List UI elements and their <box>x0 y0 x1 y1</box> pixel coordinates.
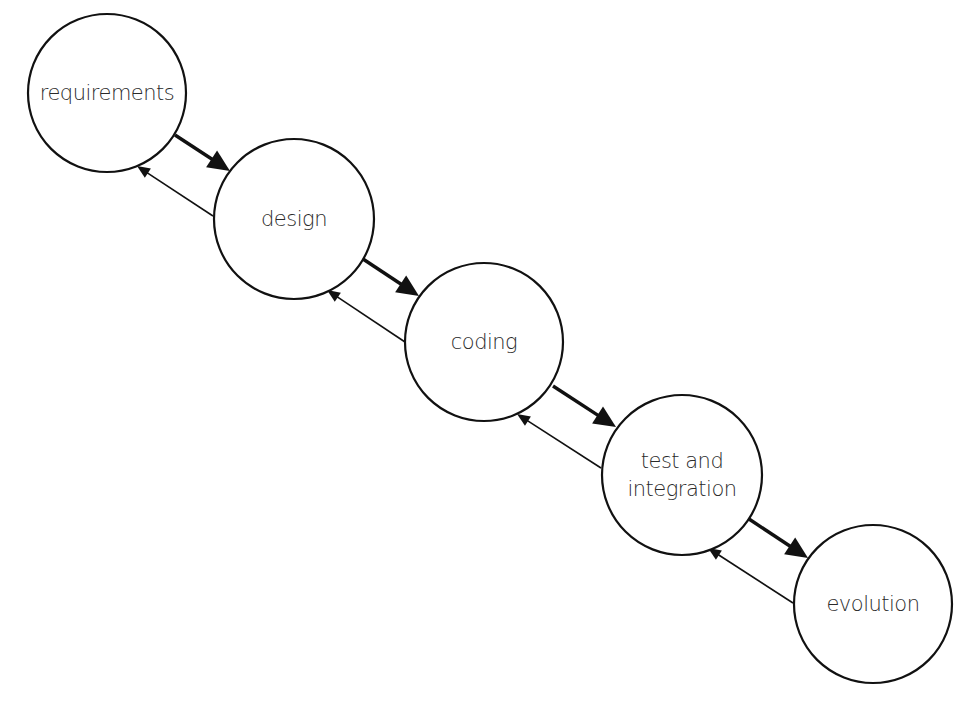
node-label: evolution <box>826 592 919 616</box>
arrow-shaft <box>749 519 791 547</box>
arrow-test-and-integration-to-evolution <box>749 519 808 558</box>
node-coding: coding <box>405 263 563 421</box>
lifecycle-diagram: requirementsdesigncodingtest andintegrat… <box>0 0 977 711</box>
arrow-design-to-coding <box>363 259 419 296</box>
arrowhead-icon <box>206 151 230 171</box>
arrow-shaft <box>526 420 601 468</box>
arrow-test-and-integration-to-coding <box>517 414 601 468</box>
arrow-evolution-to-test-and-integration <box>708 548 793 603</box>
node-label: requirements <box>40 81 175 105</box>
arrowhead-icon <box>517 414 531 426</box>
arrow-design-to-requirements <box>137 166 213 216</box>
node-label: design <box>261 207 327 231</box>
node-label: integration <box>627 477 736 501</box>
arrow-requirements-to-design <box>175 135 230 171</box>
node-evolution: evolution <box>794 525 952 683</box>
arrow-shaft <box>363 259 402 285</box>
arrow-shaft <box>553 386 599 416</box>
node-label: test and <box>641 449 724 473</box>
arrowhead-icon <box>137 166 151 178</box>
arrowhead-icon <box>395 276 419 296</box>
arrow-shaft <box>175 135 213 160</box>
nodes-layer: requirementsdesigncodingtest andintegrat… <box>28 14 952 683</box>
node-label: coding <box>451 330 517 354</box>
arrow-shaft <box>146 172 213 216</box>
node-circle <box>602 395 762 555</box>
arrow-coding-to-design <box>327 290 405 342</box>
arrowhead-icon <box>784 538 808 558</box>
arrow-shaft <box>717 554 793 603</box>
arrow-shaft <box>336 296 405 342</box>
arrow-coding-to-test-and-integration <box>553 386 616 427</box>
node-requirements: requirements <box>28 14 186 172</box>
node-test-and-integration: test andintegration <box>602 395 762 555</box>
node-design: design <box>214 139 374 299</box>
arrowhead-icon <box>592 407 616 427</box>
